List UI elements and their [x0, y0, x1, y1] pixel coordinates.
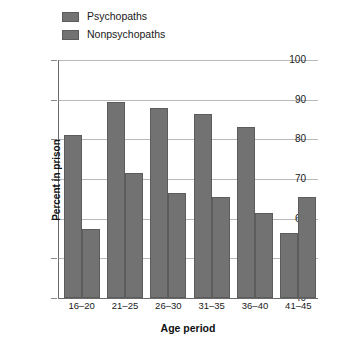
bar-nonpsychopaths-21–25	[125, 173, 143, 298]
legend-swatch-psychopaths	[62, 12, 79, 22]
legend-label-nonpsychopaths: Nonpsychopaths	[87, 29, 165, 40]
bar-nonpsychopaths-31–35	[212, 197, 230, 298]
x-axis-line	[58, 298, 318, 299]
legend-label-psychopaths: Psychopaths	[87, 11, 147, 22]
bar-psychopaths-41–45	[280, 233, 298, 298]
bar-group	[237, 60, 273, 298]
bar-group	[107, 60, 143, 298]
y-axis-title: Percent in prison	[51, 139, 62, 221]
y-tick-mark	[51, 100, 57, 101]
bar-group	[280, 60, 316, 298]
bar-nonpsychopaths-41–45	[298, 197, 316, 298]
x-tick-label: 41–45	[270, 301, 326, 311]
y-tick-mark	[51, 258, 57, 259]
bar-nonpsychopaths-16–20	[82, 229, 100, 298]
bar-group	[194, 60, 230, 298]
bar-group	[150, 60, 186, 298]
bar-psychopaths-36–40	[237, 127, 255, 298]
legend-item-nonpsychopaths: Nonpsychopaths	[62, 27, 165, 42]
bar-psychopaths-26–30	[150, 108, 168, 298]
legend-swatch-nonpsychopaths	[62, 30, 79, 40]
bar-chart-figure: Psychopaths Nonpsychopaths 4050607080901…	[0, 0, 338, 346]
legend-item-psychopaths: Psychopaths	[62, 9, 165, 24]
bar-psychopaths-21–25	[107, 102, 125, 298]
bar-group	[64, 60, 100, 298]
x-axis-title: Age period	[161, 322, 216, 334]
chart-legend: Psychopaths Nonpsychopaths	[62, 9, 165, 45]
bar-groups	[58, 60, 318, 298]
bar-psychopaths-16–20	[64, 135, 82, 298]
bar-psychopaths-31–35	[194, 114, 212, 298]
bar-nonpsychopaths-26–30	[168, 193, 186, 298]
bar-nonpsychopaths-36–40	[255, 213, 273, 298]
y-tick-mark	[51, 298, 57, 299]
plot-area: 405060708090100 16–2021–2526–3031–3536–4…	[58, 60, 318, 298]
y-tick-mark	[51, 60, 57, 61]
